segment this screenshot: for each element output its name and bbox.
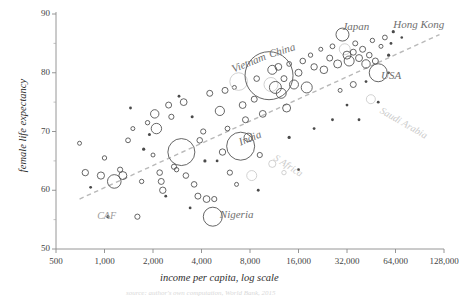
data-point-bubble: [158, 178, 164, 184]
data-point-bubble: [82, 169, 88, 175]
data-point-bubble: [225, 126, 230, 131]
data-point-bubble: [129, 107, 132, 110]
y-tick-label: 90: [20, 8, 50, 18]
data-point-bubble: [372, 58, 378, 64]
point-label-hong-kong: Hong Kong: [393, 18, 444, 30]
data-point-bubble: [301, 82, 312, 93]
data-point-bubble: [197, 138, 203, 144]
data-point-bubble: [370, 38, 374, 42]
x-tick-label: 16,000: [273, 256, 325, 266]
data-point-bubble: [78, 141, 82, 145]
data-point-bubble: [118, 167, 123, 172]
data-point-bubble: [102, 156, 106, 160]
data-point-bubble: [295, 69, 302, 76]
data-point-bubble: [160, 187, 166, 193]
data-point-bubble: [207, 90, 213, 96]
data-point-bubble: [308, 53, 312, 57]
data-point-bubble: [126, 138, 131, 143]
data-point-bubble: [283, 104, 291, 112]
data-point-bubble: [319, 47, 323, 51]
data-point-bubble: [382, 35, 387, 40]
x-tick-label: 4,000: [176, 256, 228, 266]
data-point-bubble: [281, 76, 287, 82]
data-point-bubble: [191, 182, 197, 188]
data-point-bubble: [151, 153, 155, 157]
data-point-bubble: [131, 127, 135, 131]
data-point-bubble: [400, 36, 403, 39]
data-point-bubble: [339, 44, 350, 55]
data-point-bubble: [201, 129, 206, 134]
data-point-bubble: [346, 104, 349, 107]
data-point-bubble: [320, 66, 328, 74]
data-point-bubble: [365, 80, 368, 83]
data-point-bubble: [151, 110, 159, 118]
y-tick-label: 50: [20, 243, 50, 253]
data-point-bubble: [360, 46, 366, 52]
data-point-bubble: [366, 52, 372, 58]
data-point-bubble: [350, 82, 356, 88]
x-axis-title: income per capita, log scale: [160, 272, 279, 283]
data-point-bubble: [327, 55, 333, 61]
data-point-bubble: [89, 186, 92, 189]
data-point-bubble: [356, 55, 363, 62]
data-point-bubble: [344, 56, 354, 66]
data-point-bubble: [215, 106, 224, 115]
data-point-bubble: [282, 170, 286, 174]
data-point-bubble: [203, 159, 206, 162]
x-tick-label: 64,000: [370, 256, 422, 266]
point-label-japan: Japan: [342, 20, 369, 32]
data-point-bubble: [189, 206, 192, 209]
y-axis-title: female life expectancy: [17, 56, 28, 196]
data-point-bubble: [269, 81, 281, 93]
data-point-bubble: [353, 41, 358, 46]
data-point-bubble: [203, 196, 210, 203]
data-point-bubble: [239, 102, 246, 109]
x-tick-label: 2,000: [127, 256, 179, 266]
data-point-bubble: [142, 148, 145, 151]
data-point-bubble: [313, 127, 316, 130]
point-label-nigeria: Nigeria: [220, 208, 254, 220]
data-point-bubble: [180, 99, 187, 106]
data-point-bubble: [264, 78, 278, 92]
data-point-bubble: [289, 80, 298, 89]
data-point-bubble: [254, 76, 260, 82]
data-point-bubble: [195, 193, 201, 199]
data-point-bubble: [338, 88, 342, 92]
data-point-bubble: [119, 172, 127, 180]
data-point-bubble: [377, 101, 380, 104]
data-point-bubble: [257, 152, 262, 157]
data-point-bubble: [166, 102, 172, 108]
data-point-bubble: [135, 214, 140, 219]
data-point-bubble: [311, 64, 317, 70]
data-point-bubble: [300, 58, 306, 64]
data-point-bubble: [191, 115, 194, 118]
x-tick-label: 1,000: [79, 256, 131, 266]
data-point-bubble: [222, 87, 228, 93]
data-point-bubble: [257, 189, 260, 192]
data-point-bubble: [145, 120, 149, 124]
data-point-bubble: [212, 196, 217, 201]
data-point-bubble: [178, 95, 181, 98]
data-point-bubble: [171, 164, 176, 169]
data-point-bubble: [390, 42, 393, 45]
data-point-bubble: [392, 30, 395, 33]
x-tick-label: 32,000: [321, 256, 373, 266]
data-point-bubble: [97, 172, 104, 179]
data-point-bubble: [169, 114, 174, 119]
data-point-bubble: [366, 95, 375, 104]
data-point-bubble: [334, 60, 342, 68]
x-tick-label: 8,000: [224, 256, 276, 266]
data-point-bubble: [139, 179, 143, 183]
data-point-bubble: [148, 133, 151, 136]
data-point-bubble: [227, 170, 232, 175]
data-point-bubble: [157, 170, 163, 176]
data-point-bubble: [216, 159, 219, 162]
x-tick-label: 128,000: [418, 256, 463, 266]
data-point-bubble: [242, 117, 248, 123]
data-point-bubble: [183, 173, 189, 179]
data-point-bubble: [379, 44, 383, 48]
data-point-bubble: [151, 123, 161, 133]
data-point-bubble: [330, 44, 335, 49]
